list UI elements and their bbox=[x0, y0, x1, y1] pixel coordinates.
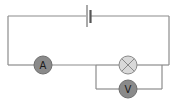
ammeter-icon: A bbox=[34, 56, 52, 74]
lamp-icon bbox=[119, 56, 137, 74]
wires bbox=[8, 16, 169, 89]
battery-icon bbox=[87, 5, 91, 27]
voltmeter-icon: V bbox=[119, 80, 137, 98]
circuit-diagram: A V bbox=[0, 0, 175, 107]
ammeter-label: A bbox=[40, 60, 47, 71]
voltmeter-label: V bbox=[125, 84, 132, 95]
